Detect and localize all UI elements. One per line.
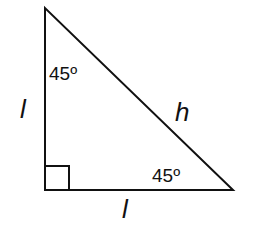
right-angle-marker <box>45 166 69 190</box>
left-leg-label: l <box>20 94 27 124</box>
hypotenuse-label: h <box>175 97 189 127</box>
triangle-svg: 45º 45º l l h <box>0 0 255 225</box>
triangle-outline <box>45 8 233 190</box>
bottom-right-angle-label: 45º <box>152 165 180 186</box>
top-angle-label: 45º <box>49 63 77 84</box>
triangle-diagram: 45º 45º l l h <box>0 0 255 225</box>
bottom-leg-label: l <box>122 194 129 224</box>
